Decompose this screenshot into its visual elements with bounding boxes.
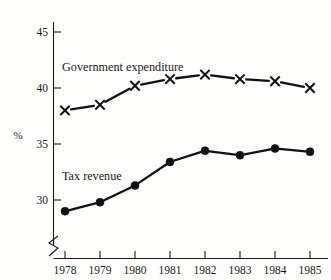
series-label-government-expenditure: Government expenditure [62, 60, 184, 74]
data-point-marker [165, 74, 174, 83]
series-segment [141, 80, 164, 84]
series-segment [281, 82, 304, 86]
data-point-marker [271, 144, 279, 152]
series-segment [139, 164, 166, 182]
series-segment [210, 151, 236, 154]
series-segment [104, 187, 131, 200]
data-point-marker [306, 148, 314, 156]
data-point-marker [200, 70, 209, 79]
data-point-marker [60, 106, 69, 115]
x-tick-label-1985: 1985 [299, 264, 322, 276]
data-point-marker [166, 158, 174, 166]
series-segment [176, 75, 199, 78]
data-point-marker [95, 100, 104, 109]
series-segment [246, 79, 269, 80]
y-tick-label-35: 35 [37, 138, 49, 150]
y-axis-title: % [13, 129, 22, 141]
data-point-marker [235, 74, 244, 83]
x-tick-label-1980: 1980 [124, 264, 147, 276]
series-segment [280, 149, 306, 151]
data-point-marker [96, 198, 104, 206]
data-point-marker [201, 147, 209, 155]
y-tick-label-40: 40 [37, 82, 49, 94]
x-tick-label-1982: 1982 [194, 264, 217, 276]
data-point-marker [305, 83, 314, 92]
x-tick-label-1983: 1983 [229, 264, 252, 276]
data-point-marker [130, 81, 139, 90]
series-segment [245, 149, 271, 154]
series-layer [60, 70, 314, 215]
data-point-marker [236, 151, 244, 159]
chart-container: 45 40 35 30 % 1978 1979 1980 1981 1982 1… [0, 0, 331, 280]
x-tick-label-1984: 1984 [264, 264, 287, 276]
data-point-marker [131, 181, 139, 189]
series-label-tax-revenue: Tax revenue [62, 169, 122, 183]
x-tick-label-1979: 1979 [89, 264, 112, 276]
y-tick-label-45: 45 [37, 26, 49, 38]
series-segment [211, 75, 234, 78]
line-chart: 45 40 35 30 % 1978 1979 1980 1981 1982 1… [0, 0, 331, 280]
x-tick-label-1978: 1978 [54, 264, 77, 276]
series-segment [71, 106, 94, 110]
series-segment [174, 152, 200, 160]
y-tick-label-30: 30 [37, 194, 49, 206]
data-point-marker [270, 77, 279, 86]
data-point-marker [61, 207, 69, 215]
series-segment [69, 203, 95, 210]
series-segment [105, 89, 129, 102]
x-tick-label-1981: 1981 [159, 264, 182, 276]
